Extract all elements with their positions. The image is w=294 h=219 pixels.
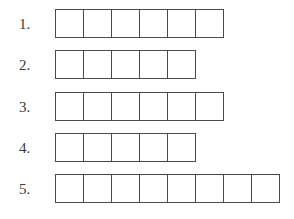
letter-box[interactable] xyxy=(84,174,112,203)
letter-boxes xyxy=(55,92,224,121)
letter-boxes xyxy=(55,174,280,203)
letter-box[interactable] xyxy=(196,92,224,121)
letter-box[interactable] xyxy=(252,174,280,203)
letter-box[interactable] xyxy=(56,9,84,38)
letter-boxes xyxy=(55,9,224,38)
letter-box[interactable] xyxy=(140,92,168,121)
letter-box[interactable] xyxy=(140,174,168,203)
letter-box[interactable] xyxy=(140,50,168,79)
letter-box[interactable] xyxy=(112,92,140,121)
answer-row: 2. xyxy=(0,50,294,79)
letter-boxes xyxy=(55,133,196,162)
letter-box[interactable] xyxy=(56,133,84,162)
answer-row: 1. xyxy=(0,9,294,38)
letter-boxes xyxy=(55,50,196,79)
letter-box[interactable] xyxy=(224,174,252,203)
letter-box[interactable] xyxy=(140,133,168,162)
row-number-label: 3. xyxy=(19,98,30,116)
row-number-label: 4. xyxy=(19,139,30,157)
letter-box[interactable] xyxy=(112,133,140,162)
letter-box[interactable] xyxy=(56,50,84,79)
letter-box[interactable] xyxy=(168,133,196,162)
letter-box[interactable] xyxy=(196,174,224,203)
row-number-label: 5. xyxy=(19,180,30,198)
letter-box[interactable] xyxy=(84,133,112,162)
row-number-label: 1. xyxy=(19,15,30,33)
letter-box[interactable] xyxy=(84,50,112,79)
answer-row: 3. xyxy=(0,92,294,121)
row-number-label: 2. xyxy=(19,56,30,74)
letter-box[interactable] xyxy=(196,9,224,38)
letter-box[interactable] xyxy=(168,50,196,79)
letter-box[interactable] xyxy=(168,9,196,38)
letter-box[interactable] xyxy=(56,92,84,121)
letter-box[interactable] xyxy=(140,9,168,38)
letter-box[interactable] xyxy=(168,92,196,121)
letter-box[interactable] xyxy=(112,9,140,38)
letter-box[interactable] xyxy=(84,92,112,121)
letter-box[interactable] xyxy=(112,174,140,203)
letter-box[interactable] xyxy=(84,9,112,38)
answer-row: 5. xyxy=(0,174,294,203)
answer-row: 4. xyxy=(0,133,294,162)
letter-box[interactable] xyxy=(112,50,140,79)
letter-box[interactable] xyxy=(56,174,84,203)
letter-box[interactable] xyxy=(168,174,196,203)
